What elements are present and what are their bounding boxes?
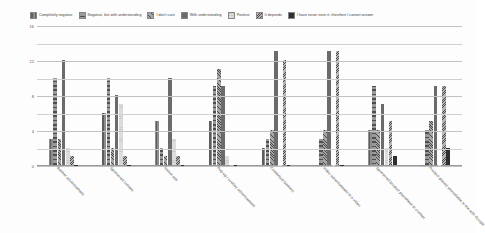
bar[interactable] bbox=[266, 139, 270, 165]
x-axis-label: Video advertisement in a video bbox=[322, 166, 361, 208]
bar[interactable] bbox=[102, 113, 106, 166]
y-axis-tick-label: 16 bbox=[30, 24, 34, 29]
bar[interactable] bbox=[74, 165, 78, 166]
bar[interactable] bbox=[376, 130, 380, 165]
bar[interactable] bbox=[287, 165, 291, 166]
bar[interactable] bbox=[107, 78, 111, 166]
legend-label: With understanding bbox=[190, 13, 222, 18]
gridline bbox=[37, 61, 462, 62]
bar[interactable] bbox=[176, 156, 180, 165]
legend-label: Negative, but with understanding bbox=[88, 13, 142, 18]
legend-item[interactable]: It depends bbox=[256, 12, 282, 19]
gridline-minor bbox=[37, 79, 462, 80]
legend-swatch-icon bbox=[79, 12, 86, 19]
bar[interactable] bbox=[270, 130, 274, 165]
bar[interactable] bbox=[209, 121, 213, 165]
bar[interactable] bbox=[434, 86, 438, 165]
bar[interactable] bbox=[111, 148, 115, 166]
bar[interactable] bbox=[127, 165, 131, 166]
bar[interactable] bbox=[234, 165, 238, 166]
bar[interactable] bbox=[66, 148, 70, 166]
legend-item[interactable]: I have never seen it, therefore I cannot… bbox=[288, 12, 373, 19]
legend-item[interactable]: Negative, but with understanding bbox=[79, 12, 142, 19]
y-axis-tick-label: 4 bbox=[32, 129, 34, 134]
legend-label: It depends bbox=[265, 13, 282, 18]
gridline-minor bbox=[37, 149, 462, 150]
bar[interactable] bbox=[155, 121, 159, 165]
legend-swatch-icon bbox=[147, 12, 154, 19]
bar[interactable] bbox=[332, 165, 336, 166]
bar[interactable] bbox=[53, 78, 57, 166]
y-axis-tick-label: 12 bbox=[30, 59, 34, 64]
y-axis-tick-label: 8 bbox=[32, 94, 34, 99]
x-axis-label: Native ads bbox=[163, 166, 179, 182]
legend-item[interactable]: Positive bbox=[228, 12, 250, 19]
bar[interactable] bbox=[49, 139, 53, 165]
plot-area: 0481216 bbox=[22, 26, 462, 166]
bar[interactable] bbox=[425, 130, 429, 165]
gridline bbox=[37, 131, 462, 132]
gridline bbox=[37, 96, 462, 97]
bar[interactable] bbox=[160, 148, 164, 166]
gridline bbox=[37, 26, 462, 27]
y-axis-tick-label: 0 bbox=[32, 164, 34, 169]
legend-item[interactable]: Completely negative bbox=[30, 12, 73, 19]
bar[interactable] bbox=[58, 139, 62, 165]
bar[interactable] bbox=[319, 139, 323, 165]
legend-swatch-icon bbox=[181, 12, 188, 19]
bar[interactable] bbox=[181, 165, 185, 166]
bar[interactable] bbox=[323, 130, 327, 165]
gridline-minor bbox=[37, 44, 462, 45]
bar[interactable] bbox=[70, 156, 74, 165]
x-axis-label: Sponsored product placement in content bbox=[375, 166, 426, 220]
bar[interactable] bbox=[230, 165, 234, 166]
bar[interactable] bbox=[340, 165, 344, 166]
bar[interactable] bbox=[278, 165, 282, 166]
legend-swatch-icon bbox=[30, 12, 37, 19]
legend-label: Positive bbox=[237, 13, 250, 18]
bar[interactable] bbox=[213, 86, 217, 165]
bar[interactable] bbox=[393, 156, 397, 165]
x-axis-label: Banner advertisement bbox=[56, 166, 85, 197]
x-axis-label: Contextual banners bbox=[269, 166, 295, 193]
bar[interactable] bbox=[225, 156, 229, 165]
x-axis-label: Pop-up / overlay advertisement bbox=[216, 166, 256, 208]
gridline-minor bbox=[37, 114, 462, 115]
bar[interactable] bbox=[368, 130, 372, 165]
chart-legend: Completely negativeNegative, but with un… bbox=[30, 9, 450, 21]
bar[interactable] bbox=[446, 148, 450, 166]
legend-label: I don't care bbox=[156, 13, 174, 18]
bar[interactable] bbox=[217, 69, 221, 165]
bar[interactable] bbox=[438, 165, 442, 166]
legend-item[interactable]: With understanding bbox=[181, 12, 222, 19]
bar[interactable] bbox=[262, 148, 266, 166]
bar[interactable] bbox=[442, 86, 446, 165]
bar[interactable] bbox=[172, 139, 176, 165]
legend-swatch-icon bbox=[256, 12, 263, 19]
bar[interactable] bbox=[372, 86, 376, 165]
legend-label: I have never seen it, therefore I cannot… bbox=[297, 13, 373, 18]
x-axis-labels: Banner advertisementSponsored contentNat… bbox=[37, 166, 462, 230]
legend-label: Completely negative bbox=[39, 13, 73, 18]
bar[interactable] bbox=[421, 165, 425, 166]
y-axis: 0481216 bbox=[22, 26, 36, 166]
bar[interactable] bbox=[123, 156, 127, 165]
legend-item[interactable]: I don't care bbox=[147, 12, 174, 19]
bar[interactable] bbox=[168, 78, 172, 166]
x-axis-label: Sponsored content bbox=[110, 166, 135, 193]
grid-area bbox=[37, 26, 462, 166]
bar[interactable] bbox=[164, 156, 168, 165]
x-axis-label: Product placed unavailable to me with Go… bbox=[428, 166, 485, 227]
legend-swatch-icon bbox=[288, 12, 295, 19]
bar[interactable] bbox=[221, 86, 225, 165]
legend-swatch-icon bbox=[228, 12, 235, 19]
bar[interactable] bbox=[429, 121, 433, 165]
bar[interactable] bbox=[385, 148, 389, 166]
bar[interactable] bbox=[315, 165, 319, 166]
bar[interactable] bbox=[389, 121, 393, 165]
bar[interactable] bbox=[115, 95, 119, 165]
